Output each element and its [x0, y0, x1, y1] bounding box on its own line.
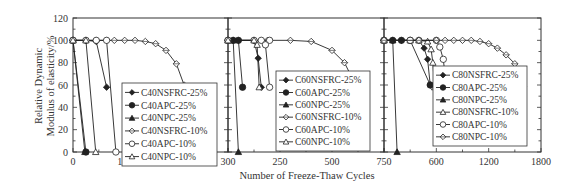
- x-tick-label: 500: [325, 156, 340, 167]
- y-axis-title-line1: Relative Dynamic: [33, 48, 44, 124]
- circle-marker-icon: [262, 42, 268, 48]
- legend-label: C40NSFRC-10%: [141, 126, 208, 136]
- x-tick-label: 1200: [479, 156, 499, 167]
- legend-label: C40NSFRC-25%: [141, 88, 208, 98]
- legend-c60: C60NSFRC-25%C60APC-25%C60NPC-25%C60NSFRC…: [276, 71, 370, 151]
- legend-label: C80NPC-25%: [452, 95, 507, 105]
- circle-marker-icon: [93, 37, 99, 43]
- circle-marker-icon: [437, 44, 443, 50]
- series-c60apc-10pct: [225, 37, 273, 90]
- circle-marker-icon: [239, 84, 245, 90]
- circle-marker-icon: [103, 37, 109, 43]
- series-c40nsfrc-10pct: [70, 37, 187, 88]
- legend-label: C40NPC-10%: [141, 152, 196, 162]
- legend-label: C80APC-10%: [452, 120, 507, 130]
- x-tick-label: 300: [221, 156, 236, 167]
- legend-label: C80NSFRC-25%: [452, 70, 519, 80]
- legend-c40: C40NSFRC-25%C40APC-25%C40NPC-25%C40NSFRC…: [122, 83, 217, 166]
- y-tick-label: 120: [53, 13, 68, 24]
- triangle-marker-icon: [428, 46, 434, 52]
- legend-label: C60NPC-25%: [295, 100, 350, 110]
- diamond-marker-icon: [103, 84, 109, 90]
- y-tick-label: 40: [58, 102, 68, 113]
- circle-marker-icon: [440, 122, 446, 128]
- series-c60npc-10pct: [225, 37, 263, 90]
- x-tick-label: 0: [71, 156, 76, 167]
- legend-label: C80NSFRC-10%: [452, 107, 519, 117]
- legend-label: C60APC-25%: [295, 88, 350, 98]
- y-tick-label: 0: [63, 147, 68, 158]
- x-tick-label: 600: [429, 156, 444, 167]
- circle-marker-icon: [283, 127, 289, 133]
- circle-marker-icon: [113, 149, 119, 155]
- circle-marker-icon: [266, 84, 272, 90]
- series-c80apc-25pct: [381, 37, 434, 88]
- y-tick-label: 60: [58, 80, 68, 91]
- legend-label: C40APC-10%: [141, 139, 196, 149]
- series-c80nsfrc-25pct: [381, 37, 434, 88]
- legend-label: C80NPC-10%: [452, 132, 507, 142]
- circle-marker-icon: [283, 90, 289, 96]
- legend-label: C40NPC-25%: [141, 113, 196, 123]
- legend-label: C80APC-25%: [452, 83, 507, 93]
- x-tick-label: 250: [273, 156, 288, 167]
- circle-marker-icon: [129, 102, 135, 108]
- legend-c80: C80NSFRC-25%C80APC-25%C80NPC-25%C80NSFRC…: [433, 66, 527, 146]
- x-tick-label: 1800: [531, 156, 551, 167]
- x-tick-label: 750: [377, 156, 392, 167]
- diamond-marker-icon: [421, 45, 427, 51]
- circle-marker-icon: [129, 141, 135, 147]
- circle-marker-icon: [440, 85, 446, 91]
- legend-label: C40APC-25%: [141, 101, 196, 111]
- circle-marker-icon: [440, 56, 446, 62]
- legend-label: C60APC-10%: [295, 125, 350, 135]
- y-tick-label: 20: [58, 124, 68, 135]
- freeze-thaw-chart: 0204060801001200100200300250500750600120…: [0, 0, 578, 192]
- y-axis-title-line2: Modulus of elasticity/%: [45, 35, 56, 136]
- legend-label: C60NSFRC-25%: [295, 75, 362, 85]
- x-axis-title: Number of Freeze-Thaw Cycles: [240, 170, 375, 181]
- y-tick-label: 80: [58, 57, 68, 68]
- diamond-marker-icon: [424, 56, 430, 62]
- triangle-marker-icon: [430, 59, 436, 65]
- legend-label: C60NSFRC-10%: [295, 112, 362, 122]
- legend-label: C60NPC-10%: [295, 137, 350, 147]
